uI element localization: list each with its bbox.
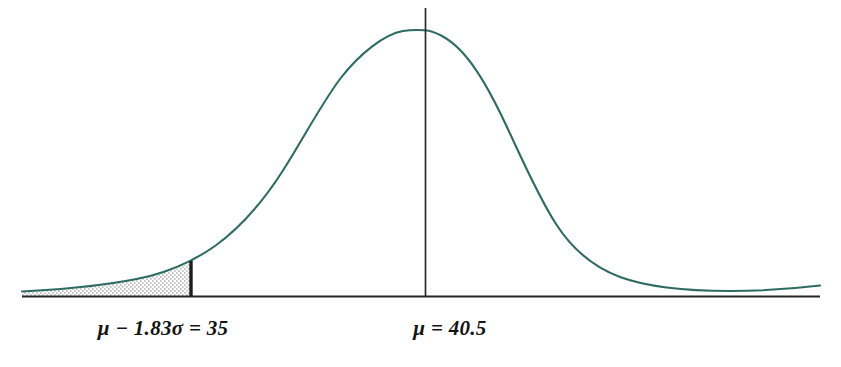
mean-label-text: μ = 40.5 [413, 316, 486, 340]
threshold-label-text: μ − 1.83σ = 35 [98, 316, 229, 340]
normal-distribution-figure: μ − 1.83σ = 35 μ = 40.5 [0, 0, 841, 367]
threshold-label: μ − 1.83σ = 35 [98, 316, 229, 341]
distribution-plot [0, 0, 841, 367]
mean-label: μ = 40.5 [413, 316, 486, 341]
normal-curve [22, 30, 820, 291]
shaded-tail-region [22, 263, 191, 297]
